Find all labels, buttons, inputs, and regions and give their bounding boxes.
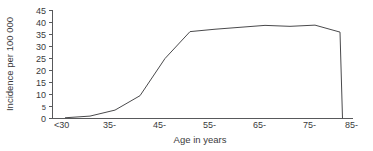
incidence-by-age-line-chart: 0 5 10 15 20 25 30 35 40 45 <30 35- 45- … xyxy=(0,0,373,151)
x-tick-label-55: 55- xyxy=(203,120,216,130)
y-tick-label-40: 40 xyxy=(36,18,46,28)
x-tick-label-lt30: <30 xyxy=(54,120,69,130)
y-tick-label-15: 15 xyxy=(36,78,46,88)
y-tick-label-0: 0 xyxy=(41,114,46,124)
incidence-data-line xyxy=(65,25,343,118)
x-tick-label-85: 85- xyxy=(345,120,358,130)
y-tick-label-10: 10 xyxy=(36,90,46,100)
y-tick-label-5: 5 xyxy=(42,103,46,112)
y-tick-label-25: 25 xyxy=(36,54,46,64)
y-tick-label-30: 30 xyxy=(36,42,46,52)
y-tick-label-20: 20 xyxy=(36,66,46,76)
y-axis-title: Incidence per 100 000 xyxy=(4,17,15,111)
x-tick-label-45: 45- xyxy=(153,120,166,130)
y-tick-label-45: 45 xyxy=(36,6,46,16)
x-tick-label-65: 65- xyxy=(253,120,266,130)
x-tick-label-75: 75- xyxy=(303,120,316,130)
y-tick-label-35: 35 xyxy=(36,30,46,40)
x-axis-title: Age in years xyxy=(174,134,227,145)
axis-spines xyxy=(53,11,353,119)
y-axis-ticks xyxy=(49,11,53,119)
chart-plot-area: 0 5 10 15 20 25 30 35 40 45 <30 35- 45- … xyxy=(0,0,373,151)
x-tick-label-35: 35- xyxy=(103,120,116,130)
